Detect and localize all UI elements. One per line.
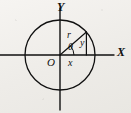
figure-container: Y X O r θ y x [0,0,131,113]
vertical-leg-label: y [80,38,84,48]
origin-label: O [47,57,55,68]
polar-circle-diagram [0,0,131,113]
radius-label: r [67,30,71,40]
theta-angle-label: θ [68,42,73,52]
horizontal-leg-label: x [68,58,72,68]
x-axis-label: X [117,46,125,58]
y-axis-label: Y [57,1,64,13]
